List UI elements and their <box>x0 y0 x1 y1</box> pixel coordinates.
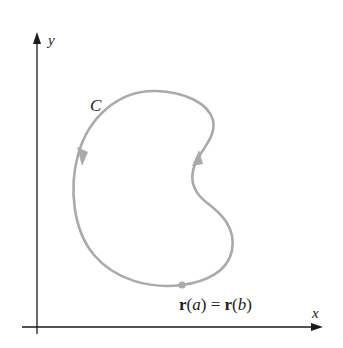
param-b: b <box>238 295 247 314</box>
paren: ) <box>246 295 252 314</box>
equals: = <box>206 295 224 314</box>
x-axis-label: x <box>311 305 319 321</box>
point-label: r(a) = r(b) <box>179 295 252 314</box>
y-axis-arrow-icon <box>33 32 41 44</box>
curve-label: C <box>90 96 102 115</box>
start-end-point <box>178 281 185 288</box>
closed-curve-diagram: y x C r(a) = r(b) <box>0 0 343 348</box>
x-axis-arrow-icon <box>311 323 323 331</box>
param-a: a <box>192 295 201 314</box>
curve-c <box>73 91 232 286</box>
y-axis-label: y <box>46 32 55 48</box>
